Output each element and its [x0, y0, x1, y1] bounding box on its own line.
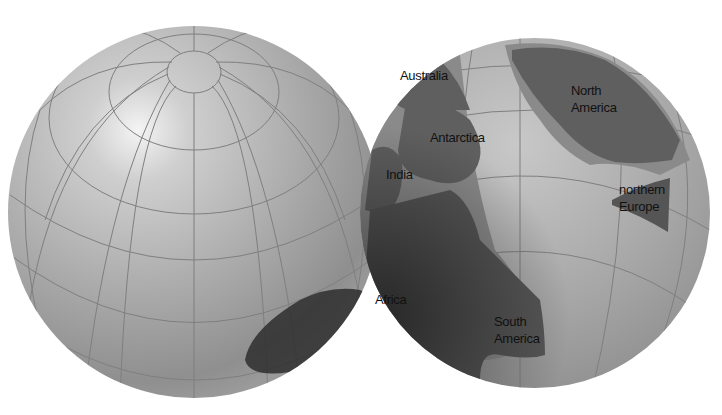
label-south-america-line1: South: [494, 314, 527, 329]
label-northern-europe-line1: northern: [619, 182, 665, 197]
label-africa: Africa: [375, 292, 408, 307]
label-north-america-line2: America: [571, 100, 618, 115]
label-australia: Australia: [400, 68, 449, 83]
label-india: India: [386, 167, 414, 182]
globes-figure: Australia Antarctica India North America…: [0, 0, 722, 415]
label-north-america-line1: North: [571, 83, 601, 98]
left-globe: [8, 20, 380, 405]
label-antarctica: Antarctica: [430, 130, 486, 145]
label-northern-europe-line2: Europe: [619, 199, 659, 214]
right-globe: Australia Antarctica India North America…: [360, 25, 710, 404]
label-south-america-line2: America: [494, 331, 541, 346]
